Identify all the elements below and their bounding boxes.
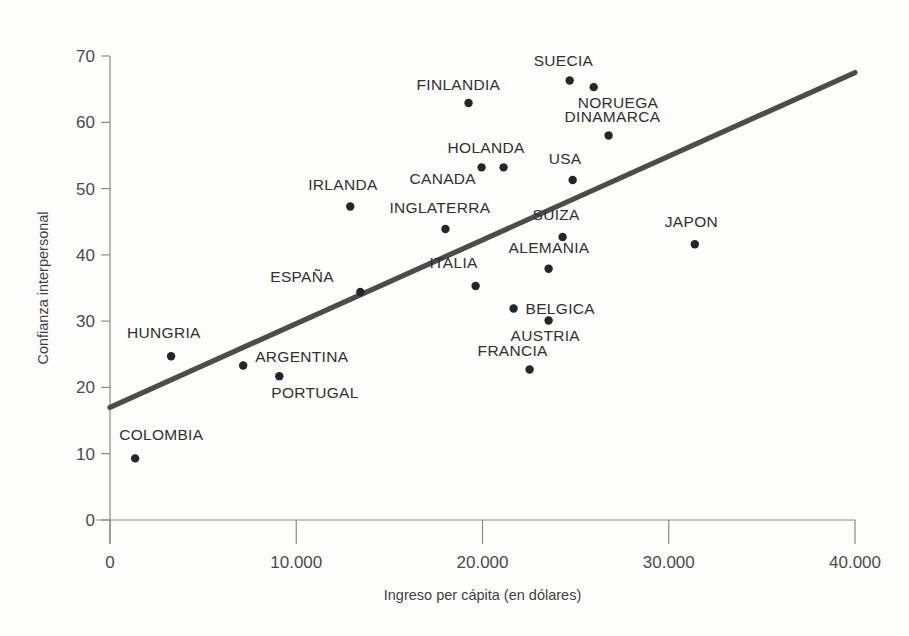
axes-group: 010203040506070010.00020.00030.00040.000 xyxy=(76,47,881,572)
data-point xyxy=(544,265,552,273)
data-point xyxy=(477,163,485,171)
x-tick-label: 20.000 xyxy=(457,553,509,572)
y-tick-label: 30 xyxy=(76,312,95,331)
data-point-label: ITALIA xyxy=(430,254,478,271)
y-tick-label: 40 xyxy=(76,246,95,265)
data-point-label: SUIZA xyxy=(533,206,581,223)
x-axis-title: Ingreso per cápita (en dólares) xyxy=(384,587,581,603)
data-point-label: BELGICA xyxy=(526,300,596,317)
data-point-label: ESPAÑA xyxy=(270,268,334,285)
y-tick-label: 60 xyxy=(76,113,95,132)
scatter-chart: 010203040506070010.00020.00030.00040.000… xyxy=(0,0,909,636)
x-tick-label: 30.000 xyxy=(643,553,695,572)
data-point-label: USA xyxy=(549,150,582,167)
data-point xyxy=(499,163,507,171)
x-tick-label: 10.000 xyxy=(270,553,322,572)
y-tick-label: 70 xyxy=(76,47,95,66)
data-point xyxy=(568,176,576,184)
plot-canvas: 010203040506070010.00020.00030.00040.000… xyxy=(0,0,909,636)
data-point-label: INGLATERRA xyxy=(389,199,490,216)
data-point xyxy=(691,240,699,248)
data-point-label: AUSTRIA xyxy=(511,327,581,344)
data-point xyxy=(167,352,175,360)
data-point-label: CANADA xyxy=(410,170,477,187)
data-point-label: HOLANDA xyxy=(448,139,525,156)
y-tick-label: 20 xyxy=(76,378,95,397)
data-point xyxy=(464,99,472,107)
data-point-label: DINAMARCA xyxy=(565,108,661,125)
data-point-label: SUECIA xyxy=(534,52,594,69)
data-point-label: COLOMBIA xyxy=(119,426,204,443)
data-point xyxy=(525,365,533,373)
y-tick-label: 0 xyxy=(86,511,95,530)
data-point-label: HUNGRIA xyxy=(127,324,201,341)
y-tick-label: 10 xyxy=(76,445,95,464)
data-point xyxy=(471,282,479,290)
data-point xyxy=(275,372,283,380)
x-tick-label: 0 xyxy=(105,553,114,572)
data-point xyxy=(239,361,247,369)
data-point xyxy=(509,304,517,312)
data-point xyxy=(589,83,597,91)
data-point xyxy=(356,288,364,296)
data-point xyxy=(346,202,354,210)
y-axis-title: Confianza interpersonal xyxy=(35,211,51,364)
data-point xyxy=(131,454,139,462)
data-point xyxy=(565,76,573,84)
data-point xyxy=(441,225,449,233)
data-point-label: IRLANDA xyxy=(308,176,378,193)
data-point xyxy=(544,316,552,324)
x-tick-label: 40.000 xyxy=(829,553,881,572)
y-tick-label: 50 xyxy=(76,180,95,199)
point-labels-group: COLOMBIAHUNGRIAARGENTINAPORTUGALIRLANDAE… xyxy=(119,52,718,444)
data-point-label: ARGENTINA xyxy=(255,348,348,365)
data-point-label: PORTUGAL xyxy=(271,384,358,401)
data-point-label: ALEMANIA xyxy=(509,239,590,256)
data-point-label: FINLANDIA xyxy=(417,76,501,93)
data-point xyxy=(604,131,612,139)
data-point-label: JAPON xyxy=(665,213,718,230)
